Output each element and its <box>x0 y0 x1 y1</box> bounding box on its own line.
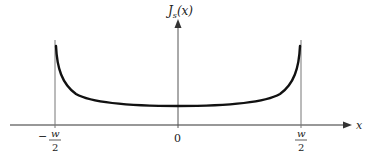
tick-left: − w 2 <box>38 128 61 153</box>
tick-right: w 2 <box>295 128 307 153</box>
svg-text:w: w <box>51 128 60 139</box>
svg-text:w: w <box>297 128 306 139</box>
y-axis-label: Js(x) <box>165 4 193 20</box>
svg-text:2: 2 <box>298 142 304 153</box>
current-distribution-diagram: Js(x) x − w 2 0 w 2 <box>0 0 369 154</box>
y-axis-arrow-icon <box>175 19 182 28</box>
svg-text:2: 2 <box>52 142 58 153</box>
svg-text:−: − <box>38 130 47 143</box>
x-axis-label: x <box>356 119 363 132</box>
x-axis-arrow-icon <box>343 122 352 129</box>
tick-center: 0 <box>174 132 181 145</box>
